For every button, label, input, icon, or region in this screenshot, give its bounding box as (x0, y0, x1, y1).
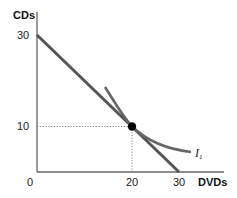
curve-label-sub: 1 (199, 153, 203, 161)
x-tick-30: 30 (173, 176, 185, 188)
budget-line (37, 35, 179, 172)
origin-label: 0 (27, 176, 33, 188)
x-tick-20: 20 (126, 176, 138, 188)
tangency-point (128, 122, 136, 130)
y-tick-10: 10 (17, 120, 29, 132)
y-axis-label: CDs (13, 9, 35, 21)
chart: CDs 30 10 0 20 30 DVDs I1 (0, 0, 237, 198)
y-tick-30: 30 (17, 29, 29, 41)
curve-label-i1: I1 (194, 146, 203, 161)
x-axis-label: DVDs (198, 176, 227, 188)
